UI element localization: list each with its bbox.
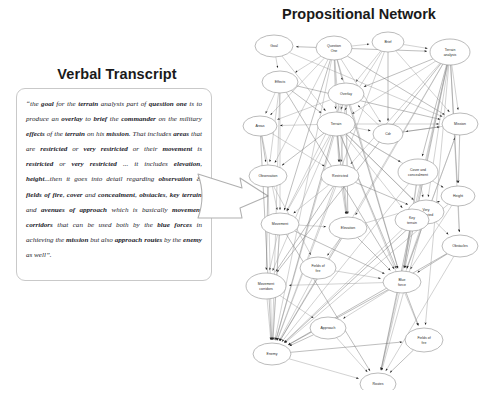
node-label: Overlay [340,92,352,96]
node-label: Very [422,208,429,212]
network-edge [266,93,276,114]
network-edge [337,60,342,80]
node-label: Fields of [311,264,324,268]
network-edge [418,254,448,273]
node-label: terrain [407,221,417,225]
network-node-approach[interactable]: Approach [310,317,346,339]
network-edge [276,57,278,68]
network-node-fields-fire-mid[interactable]: Fields offire [300,257,336,279]
network-edge [343,290,389,319]
network-edge [289,283,383,286]
node-label: Approach [321,326,336,330]
network-node-height[interactable]: Height [441,186,475,206]
network-node-terrain-analysis[interactable]: Terrainanalysis [430,39,470,65]
network-node-blue-force[interactable]: Blueforce [383,271,421,293]
node-label: Observation [259,174,278,178]
node-label: Cdr [385,132,391,136]
network-edge [451,65,460,232]
node-label: Effects [275,80,286,84]
node-label: Cover and [410,168,426,172]
network-edge [381,293,399,370]
network-edge [280,125,317,126]
network-edge [352,44,370,46]
network-edge [327,238,340,256]
network-edge [289,359,359,379]
network-edge [270,235,278,270]
network-edge [299,225,326,227]
network-edge [262,136,266,162]
network-node-fields-of-fire[interactable]: Fields offire [405,328,443,352]
network-edge [296,47,316,48]
network-edge [390,350,414,373]
network-node-elevation[interactable]: Elevation [329,217,367,239]
node-label: One [331,49,338,53]
node-label: Movement [272,222,288,226]
network-node-question-one[interactable]: QuestionOne [316,36,352,60]
network-node-restricted[interactable]: Restricted [321,165,359,187]
network-node-obstacles[interactable]: Obstacles [442,235,478,257]
network-edge [381,231,410,370]
node-label: Restricted [332,174,348,178]
node-label: force [398,283,406,287]
network-node-key-terrain[interactable]: Keyterrain [395,209,429,231]
node-label: Terrain [445,48,456,52]
network-node-cover-concealment[interactable]: Cover andconcealment [398,159,438,185]
node-label: Height [453,194,463,198]
network-title: Propositional Network [236,6,482,22]
network-node-observation[interactable]: Observation [249,165,287,187]
network-edge [404,45,428,49]
network-edge [289,53,442,117]
node-label: Question [327,44,341,48]
network-edge [286,234,370,371]
node-label: analysis [444,53,457,57]
network-edge [458,135,459,183]
network-edge [356,51,381,82]
network-node-movement-corridors[interactable]: Movementcorridors [246,273,286,299]
transcript-title: Verbal Transcript [8,66,226,82]
network-node-cdr[interactable]: Cdr [373,124,403,144]
node-label: corridors [259,287,273,291]
node-label: concealment [408,173,428,177]
node-label: Movement [258,282,274,286]
node-label: Brief [384,40,391,44]
network-node-goal[interactable]: Goal [255,35,293,57]
propositional-network-panel: Propositional Network GoalQuestionOneBri… [236,2,482,393]
node-label: Routes [372,382,383,386]
node-label: Elevation [341,226,355,230]
network-edge [294,185,329,213]
node-label: Areas [255,124,264,128]
node-label: Blue [398,278,405,282]
node-label: Enemy [267,352,278,356]
network-edge [275,60,332,340]
network-edge [272,133,325,166]
network-edge [295,56,321,72]
network-node-movement[interactable]: Movement [261,213,299,235]
network-node-effects[interactable]: Effects [262,71,298,93]
network-node-brief[interactable]: Brief [372,32,404,52]
node-label: fire [316,269,321,273]
network-edge [406,293,418,326]
node-label: Key [409,216,415,220]
network-node-areas[interactable]: Areas [243,116,277,136]
network-edge [351,63,440,164]
network-node-routes[interactable]: Routes [360,373,396,390]
network-edge [282,133,324,165]
network-node-terrain[interactable]: Terrain [317,112,355,136]
network-node-overlay[interactable]: Overlay [328,83,364,105]
network-edge [280,295,314,318]
node-label: Terrain [331,122,342,126]
node-label: Mission [454,122,466,126]
node-label: fire [422,341,427,345]
transcript-body-text: “the goal for the terrain analysis part … [26,97,202,263]
node-label: Goal [270,44,278,48]
network-edge [291,91,321,114]
transcript-box: “the goal for the terrain analysis part … [16,88,212,281]
network-edge [273,136,331,271]
network-edge [352,61,436,114]
network-node-mission[interactable]: Mission [442,113,478,135]
node-label: Obstacles [452,244,468,248]
network-node-enemy[interactable]: Enemy [253,343,291,365]
network-edge [337,338,368,372]
network-graph: GoalQuestionOneBriefTerrainanalysisEffec… [236,24,482,390]
network-edge [297,86,441,120]
